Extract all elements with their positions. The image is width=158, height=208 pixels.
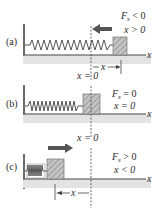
displacement-arrowhead-left: [56, 191, 62, 195]
panel-c: (c) Fs > 0 x < 0 x x: [0, 144, 158, 208]
axis-label-a: x: [147, 49, 151, 60]
axis-label-c: x: [147, 173, 151, 184]
force-relation: > 0: [121, 151, 137, 162]
panel-b: (b) Fs = 0 x = 0 x x = 0: [0, 82, 158, 144]
force-arrow-left: [92, 24, 112, 34]
panel-label-a: (a): [6, 36, 17, 47]
floor-shadow: [23, 114, 151, 123]
floor-shadow: [23, 55, 151, 64]
force-condition-a: Fs < 0: [121, 10, 145, 23]
origin-label-b: x = 0: [77, 132, 98, 143]
spring-compressed: [25, 165, 47, 176]
block: [47, 159, 64, 179]
force-relation: < 0: [130, 10, 146, 21]
panel-a: (a) Fs < 0 x > 0 x x x = 0: [0, 0, 158, 82]
displacement-label-a: x: [101, 61, 105, 72]
spring-stretched: [25, 40, 113, 50]
displacement-arrowhead-right: [116, 65, 121, 69]
force-condition-c: Fs > 0: [112, 151, 136, 164]
axis-label-b: x: [147, 108, 151, 119]
floor-shadow: [23, 179, 151, 188]
x-condition-b: x = 0: [114, 100, 135, 111]
block: [113, 37, 127, 55]
x-condition-a: x > 0: [124, 24, 145, 35]
origin-label-a: x = 0: [77, 70, 98, 81]
block: [83, 94, 100, 114]
displacement-label-c: x: [71, 187, 75, 198]
panel-label-b: (b): [6, 98, 18, 109]
x-condition-c: x < 0: [114, 164, 135, 175]
force-relation: = 0: [121, 88, 137, 99]
panel-label-c: (c): [6, 161, 17, 172]
spring-relaxed: [25, 101, 83, 111]
force-arrow-right: [48, 144, 73, 153]
